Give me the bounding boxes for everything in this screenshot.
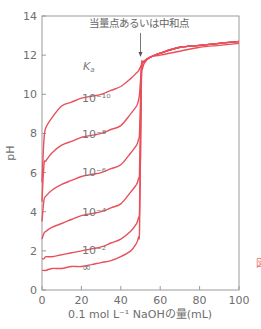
ka-legend-title: Ka bbox=[83, 60, 95, 74]
x-tick-label: 20 bbox=[74, 294, 88, 307]
y-tick-label: 10 bbox=[23, 88, 37, 101]
arrow-head-icon bbox=[139, 52, 143, 57]
curve-label: 10⁻⁴ bbox=[82, 206, 107, 219]
curve-label: 10⁻¹⁰ bbox=[82, 92, 111, 105]
curve-label: 10⁻² bbox=[82, 244, 106, 257]
curve-labels: 10⁻¹⁰10⁻⁸10⁻⁶10⁻⁴10⁻²∞ bbox=[82, 92, 111, 274]
x-tick-label: 60 bbox=[153, 294, 167, 307]
axes: 02040608010002468101214 bbox=[23, 10, 250, 307]
y-tick-label: 2 bbox=[30, 245, 37, 258]
y-tick-label: 14 bbox=[23, 10, 37, 23]
x-tick-label: 0 bbox=[39, 294, 46, 307]
titration-chart: 02040608010002468101214 10⁻¹⁰10⁻⁸10⁻⁶10⁻… bbox=[0, 0, 261, 329]
y-tick-label: 6 bbox=[30, 167, 37, 180]
x-axis-label: 0.1 mol L⁻¹ NaOHの量(mL) bbox=[68, 308, 212, 321]
x-tick-label: 80 bbox=[193, 294, 207, 307]
equivalence-annotation: 当量点あるいは中和点 bbox=[89, 17, 189, 57]
curve-label: 10⁻⁸ bbox=[82, 128, 107, 141]
y-tick-label: 4 bbox=[30, 206, 37, 219]
edge-mark: 図 bbox=[256, 258, 261, 269]
annotation-text: 当量点あるいは中和点 bbox=[89, 17, 189, 29]
curve-label: ∞ bbox=[82, 261, 91, 274]
y-tick-label: 0 bbox=[30, 284, 37, 297]
titration-curves bbox=[42, 41, 239, 270]
x-tick-label: 40 bbox=[114, 294, 128, 307]
y-axis-label: pH bbox=[4, 145, 17, 160]
y-tick-label: 8 bbox=[30, 127, 37, 140]
curve-label: 10⁻⁶ bbox=[82, 166, 107, 179]
x-tick-label: 100 bbox=[229, 294, 250, 307]
y-tick-label: 12 bbox=[23, 49, 37, 62]
